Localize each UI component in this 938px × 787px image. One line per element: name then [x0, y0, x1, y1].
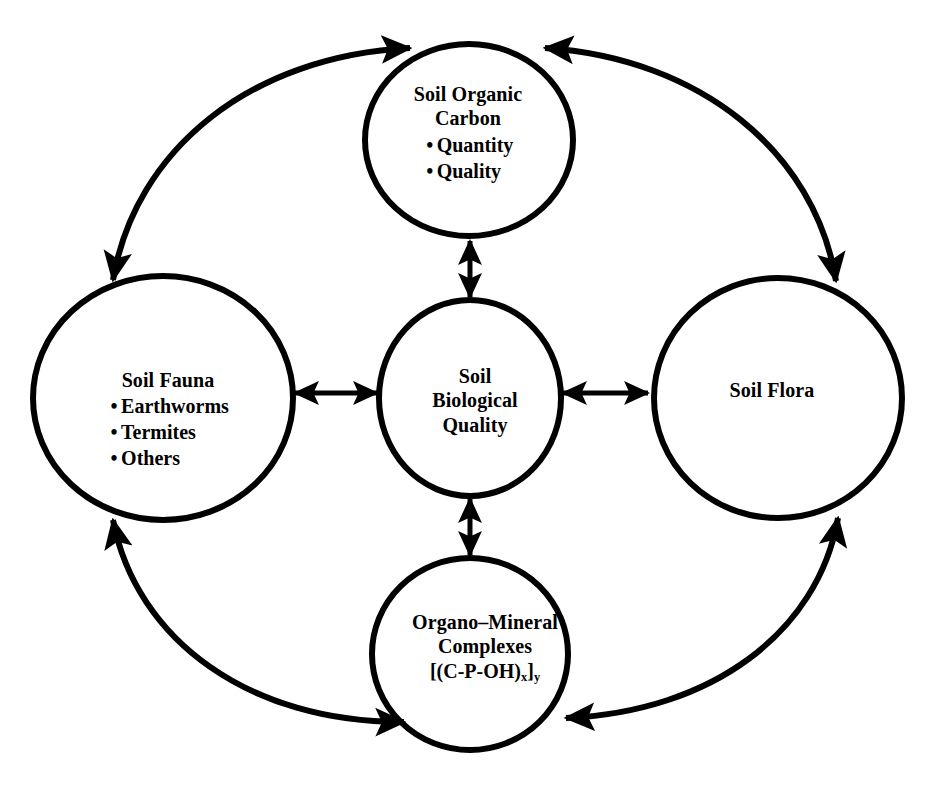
- arc-organo-to-flora: [566, 518, 838, 718]
- organo-title-line2: Complexes: [380, 634, 590, 658]
- bullet-dot-icon: •: [107, 393, 121, 419]
- flora-title: Soil Flora: [672, 378, 872, 402]
- soc-title-line2: Carbon: [358, 106, 578, 130]
- node-label-soil-organic-carbon: Soil Organic Carbon •Quantity •Quality: [358, 82, 578, 184]
- fauna-bullet-label: Others: [121, 447, 180, 469]
- formula-prefix: [(C-P-OH): [430, 660, 521, 682]
- fauna-bullet-item: •Others: [107, 445, 229, 471]
- fauna-bullet-item: •Termites: [107, 419, 229, 445]
- fauna-title: Soil Fauna: [48, 368, 288, 392]
- fauna-bullet-label: Earthworms: [121, 395, 229, 417]
- node-label-soil-flora: Soil Flora: [672, 378, 872, 402]
- center-title-line1: Soil: [400, 364, 550, 388]
- bullet-dot-icon: •: [423, 132, 437, 158]
- soc-bullet-list: •Quantity •Quality: [423, 132, 514, 184]
- organo-chemical-formula: [(C-P-OH)x]y: [380, 659, 590, 686]
- soil-biological-quality-diagram: Soil Organic Carbon •Quantity •Quality S…: [0, 0, 938, 787]
- node-label-organo-mineral-complexes: Organo–Mineral Complexes [(C-P-OH)x]y: [380, 610, 590, 685]
- soc-bullet-label: Quality: [437, 160, 501, 182]
- fauna-bullet-item: •Earthworms: [107, 393, 229, 419]
- bullet-dot-icon: •: [107, 419, 121, 445]
- fauna-bullet-label: Termites: [121, 421, 196, 443]
- bullet-dot-icon: •: [423, 158, 437, 184]
- soc-bullet-label: Quantity: [437, 134, 514, 156]
- arc-soc-to-flora: [545, 48, 836, 281]
- node-label-soil-fauna: Soil Fauna •Earthworms •Termites •Others: [48, 368, 288, 471]
- soc-bullet-item: •Quantity: [423, 132, 514, 158]
- bullet-dot-icon: •: [107, 445, 121, 471]
- soc-bullet-item: •Quality: [423, 158, 514, 184]
- center-title-line3: Quality: [400, 413, 550, 437]
- formula-mid: ]: [527, 660, 534, 682]
- soc-title-line1: Soil Organic: [358, 82, 578, 106]
- fauna-bullet-list: •Earthworms •Termites •Others: [107, 393, 229, 471]
- arc-fauna-to-organo: [113, 520, 404, 722]
- node-label-soil-biological-quality: Soil Biological Quality: [400, 364, 550, 437]
- organo-title-line1: Organo–Mineral: [380, 610, 590, 634]
- formula-subscript-y: y: [534, 670, 540, 684]
- center-title-line2: Biological: [400, 388, 550, 412]
